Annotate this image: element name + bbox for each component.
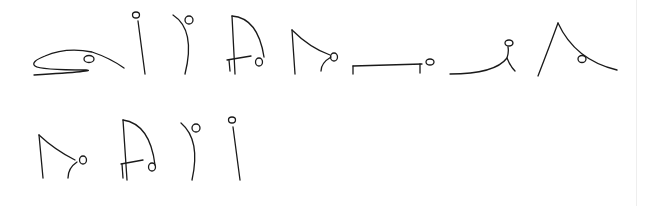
figure-limb-stroke (321, 57, 331, 71)
figure-limb-stroke (292, 30, 295, 74)
figure-limb-stroke (123, 120, 127, 180)
pose-sequence (34, 12, 617, 180)
drawing-canvas (0, 0, 654, 206)
stick-figure-pose-5-forward-fold (292, 30, 338, 74)
figure-limb-stroke (233, 127, 240, 180)
stick-figure-pose-6-plank (353, 59, 434, 74)
figure-limb-stroke (68, 162, 77, 178)
figure-limb-stroke (181, 123, 195, 180)
figure-limb-stroke (507, 47, 515, 71)
figure-limb-stroke (558, 23, 617, 70)
figure-limb-stroke (123, 120, 155, 165)
stick-figure-pose-2-standing (133, 12, 146, 74)
figure-limb-stroke (232, 16, 264, 57)
figure-head-circle-icon (133, 12, 140, 18)
figure-head-circle-icon (149, 163, 156, 171)
figure-limb-stroke (138, 21, 145, 74)
figure-head-circle-icon (192, 124, 200, 132)
stick-figure-pose-3-backbend (173, 15, 193, 74)
figure-limb-stroke (122, 164, 123, 178)
stick-figure-pose-1-cobra (34, 50, 124, 75)
stick-figure-pose-8-downward-dog (538, 23, 617, 76)
stick-figure-pose-10-lunge (121, 120, 156, 180)
figure-limb-stroke (450, 58, 507, 74)
figure-limb-stroke (227, 56, 251, 60)
figure-limb-stroke (538, 23, 558, 76)
figure-limb-stroke (232, 16, 235, 74)
figure-limb-stroke (39, 135, 75, 160)
figure-head-circle-icon (229, 117, 236, 123)
figure-head-circle-icon (84, 56, 94, 63)
stick-figure-pose-9-forward-fold (39, 135, 87, 178)
figure-limb-stroke (39, 135, 43, 178)
stick-figure-pose-12-standing (229, 117, 241, 180)
stick-figure-pose-4-lunge (227, 16, 264, 74)
figure-limb-stroke (229, 60, 230, 71)
figure-limb-stroke (173, 15, 189, 74)
figure-head-circle-icon (426, 59, 434, 65)
figure-head-circle-icon (256, 58, 263, 66)
figure-limb-stroke (121, 160, 143, 164)
figure-limb-stroke (292, 30, 330, 55)
figure-head-circle-icon (80, 156, 87, 164)
figure-limb-stroke (34, 50, 124, 75)
figure-head-circle-icon (505, 40, 513, 46)
figure-limb-stroke (353, 64, 422, 66)
stick-figure-pose-11-backbend (181, 123, 200, 180)
stick-figure-pose-7-upward-dog (450, 40, 515, 74)
figure-head-circle-icon (185, 16, 193, 24)
figure-head-circle-icon (578, 56, 586, 63)
